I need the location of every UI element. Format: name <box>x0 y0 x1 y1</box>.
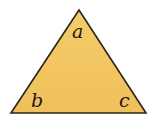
angle-label-a: a <box>72 20 83 42</box>
angle-label-c: c <box>119 89 130 111</box>
triangle-diagram: a b c <box>0 0 151 132</box>
angle-label-b: b <box>31 89 43 111</box>
